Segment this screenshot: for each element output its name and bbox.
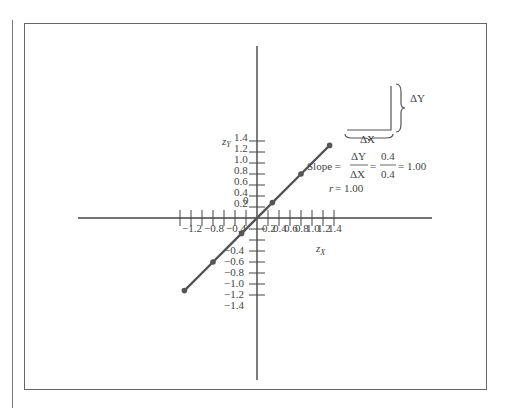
delta-x-label: ΔX <box>360 133 375 145</box>
y-axis-label: zY <box>221 135 232 149</box>
slope-label: Slope = <box>307 160 341 172</box>
slope-result: = 1.00 <box>398 160 427 172</box>
delta-y-label: ΔY <box>410 92 425 104</box>
x-tick-label: −0.8 <box>204 222 224 234</box>
equals-sign: = <box>370 160 376 172</box>
delta-corner <box>347 86 391 130</box>
delta-y-brace <box>396 84 405 132</box>
slope-num: ΔY <box>351 150 366 162</box>
slope-formula: Slope = ΔY ΔX = 0.4 0.4 = 1.00 r = 1.00 <box>307 150 427 194</box>
value-num: 0.4 <box>381 150 395 162</box>
axes <box>78 46 432 380</box>
r-label: r <box>329 182 334 194</box>
data-point <box>239 231 245 237</box>
value-den: 0.4 <box>381 168 395 180</box>
slope-den: ΔX <box>350 168 365 180</box>
data-point <box>182 288 188 294</box>
y-tick-label: −1.4 <box>224 299 244 311</box>
origin-label: 0 <box>243 194 249 206</box>
x-axis-label: zX <box>315 242 326 257</box>
x-tick-label: 1.4 <box>328 222 342 234</box>
r-value: = 1.00 <box>335 182 364 194</box>
data-point <box>210 259 216 265</box>
scatter-line-chart: −1.2−0.8−0.40.20.40.60.81.01.21.41.41.21… <box>0 0 512 409</box>
data-point <box>270 200 276 206</box>
x-tick-label: −1.2 <box>182 222 202 234</box>
data-point <box>327 143 333 149</box>
data-point <box>298 171 304 177</box>
